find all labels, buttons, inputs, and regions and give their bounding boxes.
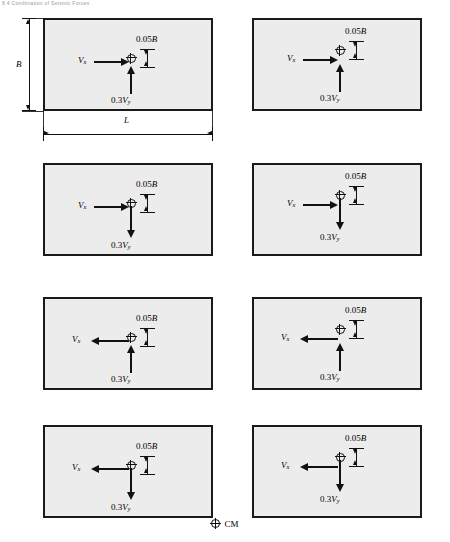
vx-arrow-head <box>330 201 338 209</box>
ecc-tick-bottom <box>349 466 364 467</box>
vx-arrow-shaft <box>94 61 124 63</box>
ext-line-right <box>212 111 213 129</box>
ecc-arrow-down <box>144 50 148 55</box>
ecc-arrow-down <box>144 195 148 200</box>
ecc-tick-bottom <box>140 67 155 68</box>
ecc-arrow-up <box>353 460 357 465</box>
vx-label: Vx <box>78 55 86 65</box>
cm-symbol-icon <box>211 519 220 528</box>
vx-arrow-head <box>300 463 308 471</box>
vx-arrow-shaft <box>303 59 333 61</box>
ecc-arrow-down <box>144 457 148 462</box>
load-case-panel-7: Vx0.3Vy0.05B <box>43 425 213 518</box>
vy-arrow-head <box>127 492 135 500</box>
vx-arrow-shaft <box>303 204 333 206</box>
vy-arrow-head <box>127 230 135 238</box>
vx-arrow-shaft <box>94 206 124 208</box>
ecc-tick-bottom <box>140 346 155 347</box>
vx-label: Vx <box>287 198 295 208</box>
load-case-panel-5: Vx0.3Vy0.05B <box>43 297 213 390</box>
ext-line-bottom <box>22 111 44 112</box>
ecc-label: 0.05B <box>136 441 157 451</box>
load-case-panel-2: Vx0.3Vy0.05B <box>252 18 422 111</box>
ecc-label: 0.05B <box>345 171 366 181</box>
vx-arrow-shaft <box>308 466 338 468</box>
vy-arrow-head <box>336 484 344 492</box>
vy-label: 0.3Vy <box>111 502 131 512</box>
vy-label: 0.3Vy <box>111 95 131 105</box>
vy-arrow-shaft <box>130 206 132 232</box>
ecc-tick-bottom <box>140 474 155 475</box>
page-header: 8.4 Combination of Seismic Forces <box>2 0 89 6</box>
cm-symbol-icon <box>336 46 345 55</box>
load-case-panel-1: Vx0.3Vy0.05B <box>43 18 213 111</box>
vx-label: Vx <box>72 462 80 472</box>
ecc-arrow-down <box>353 321 357 326</box>
ecc-tick-bottom <box>349 59 364 60</box>
vx-arrow-head <box>121 58 129 66</box>
ecc-arrow-up <box>353 53 357 58</box>
vy-label: 0.3Vy <box>111 240 131 250</box>
ext-line-left <box>43 111 44 129</box>
ecc-arrow-down <box>353 187 357 192</box>
vx-arrow-head <box>330 56 338 64</box>
width-dimension: B <box>22 18 36 111</box>
ecc-arrow-up <box>144 206 148 211</box>
vx-label: Vx <box>281 460 289 470</box>
vy-arrow-shaft <box>339 198 341 224</box>
vy-arrow-head <box>127 66 135 74</box>
ecc-arrow-up <box>144 61 148 66</box>
ext-line-top <box>22 18 44 19</box>
load-case-panel-6: Vx0.3Vy0.05B <box>252 297 422 390</box>
ecc-arrow-up <box>144 468 148 473</box>
load-case-panel-4: Vx0.3Vy0.05B <box>252 163 422 256</box>
ecc-arrow-down <box>353 449 357 454</box>
ecc-tick-bottom <box>349 338 364 339</box>
vy-label: 0.3Vy <box>320 494 340 504</box>
legend-label: CM <box>224 519 238 529</box>
vx-label: Vx <box>72 334 80 344</box>
vx-label: Vx <box>78 200 86 210</box>
vy-arrow-head <box>336 343 344 351</box>
ecc-arrow-down <box>144 329 148 334</box>
legend: CM <box>0 519 450 529</box>
vy-arrow-shaft <box>130 468 132 494</box>
vx-arrow-shaft <box>99 340 129 342</box>
cm-symbol-icon <box>336 325 345 334</box>
vx-label: Vx <box>287 53 295 63</box>
length-dimension: L <box>43 127 213 141</box>
vy-arrow-head <box>127 345 135 353</box>
ecc-arrow-up <box>144 340 148 345</box>
load-case-panel-8: Vx0.3Vy0.05B <box>252 425 422 518</box>
vy-arrow-shaft <box>339 460 341 486</box>
vx-label: Vx <box>281 332 289 342</box>
vy-arrow-head <box>336 222 344 230</box>
vy-label: 0.3Vy <box>111 374 131 384</box>
vy-arrow-head <box>336 64 344 72</box>
ecc-arrow-down <box>353 42 357 47</box>
ecc-label: 0.05B <box>136 34 157 44</box>
vx-arrow-head <box>91 465 99 473</box>
ecc-label: 0.05B <box>345 26 366 36</box>
vx-arrow-head <box>300 335 308 343</box>
vx-arrow-shaft <box>99 468 129 470</box>
ecc-label: 0.05B <box>345 433 366 443</box>
ecc-tick-bottom <box>140 212 155 213</box>
ecc-label: 0.05B <box>136 179 157 189</box>
vx-arrow-head <box>91 337 99 345</box>
vx-arrow-head <box>121 203 129 211</box>
vy-label: 0.3Vy <box>320 93 340 103</box>
vy-label: 0.3Vy <box>320 372 340 382</box>
load-case-panel-3: Vx0.3Vy0.05B <box>43 163 213 256</box>
ecc-arrow-up <box>353 332 357 337</box>
ecc-label: 0.05B <box>345 305 366 315</box>
vy-label: 0.3Vy <box>320 232 340 242</box>
ecc-tick-bottom <box>349 204 364 205</box>
ecc-arrow-up <box>353 198 357 203</box>
ecc-label: 0.05B <box>136 313 157 323</box>
vx-arrow-shaft <box>308 338 338 340</box>
